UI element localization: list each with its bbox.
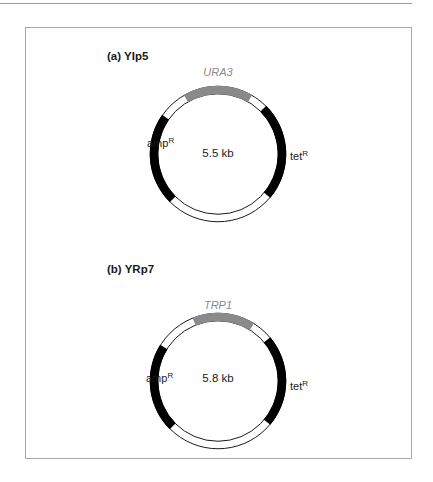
- panel-b-size-label: 5.8 kb: [202, 372, 233, 384]
- panel-b-amp-label: ampR: [146, 371, 173, 384]
- panel-a-title: (a) YIp5: [107, 50, 149, 62]
- segment-spacer: [162, 95, 188, 120]
- panel-b: (b) YRp7 TRP1 5.8 kb ampR tetR: [107, 263, 308, 449]
- segment-tetr: [264, 337, 286, 425]
- segment-ura3: [184, 86, 252, 103]
- panel-b-tet-label: tetR: [290, 379, 308, 392]
- segment-ampr: [150, 345, 176, 429]
- panel-b-title: (b) YRp7: [107, 263, 154, 275]
- plasmid-diagram: (a) YIp5 URA3 5.5 kb ampR tetR (b) YRp7 …: [0, 0, 433, 482]
- segment-spacer: [170, 192, 271, 222]
- panel-a-gene-label: URA3: [203, 66, 233, 78]
- panel-a-tet-label: tetR: [290, 149, 308, 162]
- segment-spacer: [160, 318, 195, 350]
- segment-spacer: [250, 323, 271, 342]
- panel-a: (a) YIp5 URA3 5.5 kb ampR tetR: [107, 50, 308, 222]
- panel-a-amp-label: ampR: [147, 136, 174, 149]
- panel-b-gene-label: TRP1: [204, 299, 232, 311]
- segment-ampr: [150, 115, 176, 202]
- segment-trp1: [192, 313, 254, 331]
- segment-spacer: [170, 419, 271, 449]
- panel-a-size-label: 5.5 kb: [202, 147, 233, 159]
- segment-tetr: [260, 106, 286, 198]
